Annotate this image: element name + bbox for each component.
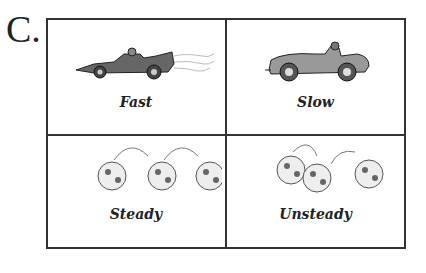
caption-unsteady: Unsteady xyxy=(227,206,404,222)
soccer-balls-uneven-icon xyxy=(251,136,391,198)
cell-fast: Fast xyxy=(48,20,224,133)
race-car-icon xyxy=(74,42,224,82)
vintage-car-icon xyxy=(265,40,375,85)
caption-slow: Slow xyxy=(227,94,404,110)
cell-steady: Steady xyxy=(48,136,224,249)
caption-fast: Fast xyxy=(48,94,224,110)
cell-unsteady: Unsteady xyxy=(227,136,404,249)
motion-grid: Fast Slow Steady Unsteady xyxy=(46,18,406,249)
caption-steady: Steady xyxy=(48,206,224,222)
cell-slow: Slow xyxy=(227,20,404,133)
figure-label: C. xyxy=(6,10,41,48)
soccer-balls-even-icon xyxy=(72,138,222,198)
